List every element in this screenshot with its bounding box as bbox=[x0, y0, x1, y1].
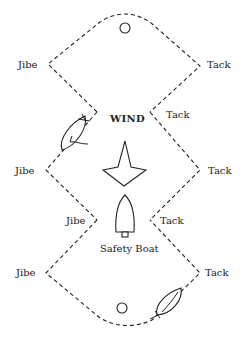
label-tack-inner-lower-right: Tack bbox=[160, 216, 184, 226]
wind-arrow-icon bbox=[103, 141, 146, 186]
sailboat-upper-left-icon bbox=[61, 114, 90, 150]
label-jibe-inner-lower-left: Jibe bbox=[66, 216, 86, 226]
sailboat-lower-right-icon bbox=[150, 288, 181, 319]
label-tack-bottom-right: Tack bbox=[205, 268, 229, 278]
label-tack-top-right: Tack bbox=[207, 60, 231, 70]
course-path-mid-right bbox=[150, 112, 200, 220]
label-jibe-top-left: Jibe bbox=[18, 60, 38, 70]
bottom-buoy-icon bbox=[117, 303, 127, 313]
label-jibe-bottom-left: Jibe bbox=[16, 268, 36, 278]
wind-label: WIND bbox=[110, 114, 145, 124]
label-tack-mid-right: Tack bbox=[208, 166, 232, 176]
label-jibe-mid-left: Jibe bbox=[15, 166, 35, 176]
safety-boat-label: Safety Boat bbox=[100, 244, 159, 254]
top-buoy-icon bbox=[120, 23, 130, 33]
safety-boat-icon bbox=[116, 195, 134, 237]
label-tack-inner-upper-right: Tack bbox=[166, 110, 190, 120]
